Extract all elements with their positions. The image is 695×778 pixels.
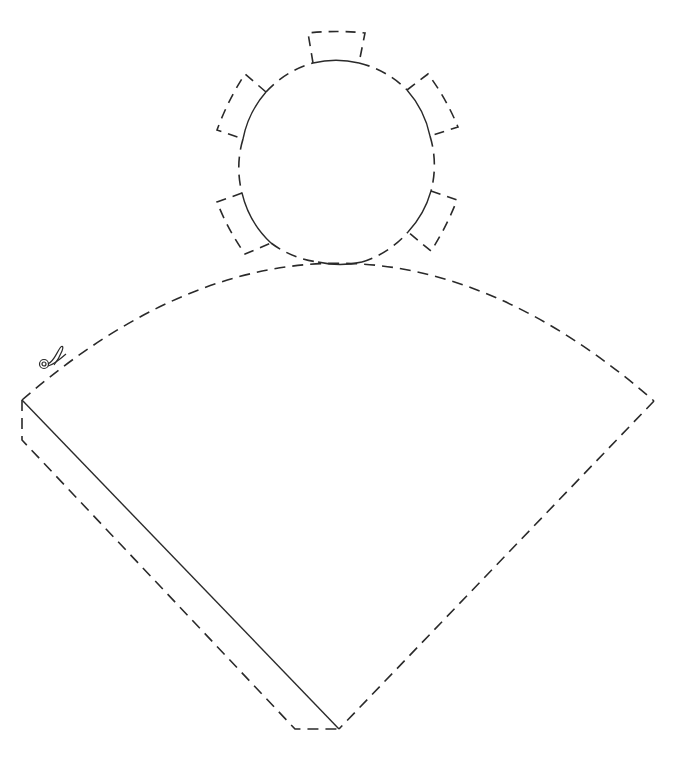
scissors-icon	[40, 346, 67, 368]
cone-left-fold-edge	[22, 400, 339, 729]
circle-cut-top-left	[266, 63, 313, 92]
cone-sector	[22, 263, 654, 729]
circle-base	[239, 60, 435, 264]
tab-lower-right	[408, 191, 457, 251]
circle-fold-top	[313, 60, 359, 63]
tab-upper-left	[217, 74, 266, 139]
circle-cut-bottom-left	[271, 243, 318, 262]
circle-cut-bottom-right	[362, 232, 408, 262]
circle-fold-upper-right	[407, 90, 430, 136]
cone-outer-arc	[22, 263, 654, 401]
circle-cut-left	[239, 139, 243, 193]
circle-cut-top-right	[359, 63, 407, 90]
cone-right-edge	[339, 401, 654, 729]
circle-fold-lower-left	[242, 193, 271, 243]
circle-fold-lower-right	[408, 191, 431, 232]
circle-cut-right	[430, 136, 434, 191]
tab-upper-right	[407, 74, 458, 136]
tab-top	[308, 32, 365, 64]
circle-fold-upper-left	[243, 92, 266, 139]
cone-template-diagram	[0, 0, 695, 778]
